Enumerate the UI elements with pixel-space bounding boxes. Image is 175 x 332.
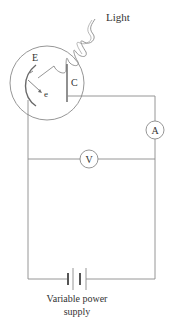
battery-icon xyxy=(68,268,86,290)
electron-arrows xyxy=(28,71,40,91)
electron-label: e xyxy=(44,89,48,99)
voltmeter-label: V xyxy=(85,154,93,165)
circuit-wires xyxy=(28,96,155,279)
ammeter-label: A xyxy=(151,125,159,136)
collector-label: C xyxy=(71,77,78,88)
emitter-label: E xyxy=(32,52,38,63)
photoelectric-circuit-diagram: Light E e C A V Varia xyxy=(0,0,175,332)
ammeter: A xyxy=(146,121,164,139)
light-label: Light xyxy=(106,11,130,23)
supply-label-line2: supply xyxy=(64,306,91,317)
voltmeter: V xyxy=(80,150,98,168)
supply-label-line1: Variable power xyxy=(47,293,108,304)
